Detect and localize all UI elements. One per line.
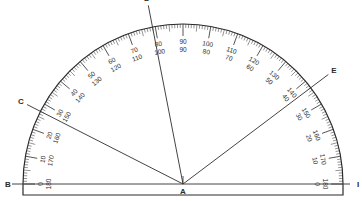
tick-mark: [49, 97, 52, 99]
point-labels: CDEBIA: [5, 0, 359, 196]
tick-mark: [329, 156, 341, 158]
point-label-d: D: [144, 0, 150, 3]
tick-mark: [91, 53, 95, 59]
tick-mark: [270, 51, 272, 54]
tick-mark: [47, 99, 50, 101]
tick-mark: [196, 25, 197, 32]
tick-mark: [80, 61, 88, 70]
tick-mark: [26, 151, 30, 152]
tick-mark: [103, 45, 109, 55]
tick-mark: [268, 50, 270, 53]
inner-scale-number: 70: [224, 53, 234, 62]
tick-mark: [70, 71, 75, 76]
tick-mark: [34, 127, 38, 128]
tick-mark: [321, 109, 325, 111]
tick-mark: [322, 116, 328, 119]
tick-mark: [87, 56, 89, 59]
tick-mark: [207, 26, 208, 30]
tick-mark: [169, 25, 170, 32]
tick-mark: [46, 102, 49, 104]
tick-mark: [311, 104, 321, 110]
tick-mark: [84, 58, 86, 61]
tick-mark: [331, 132, 335, 133]
tick-mark: [155, 26, 157, 38]
tick-mark: [314, 97, 317, 99]
tick-mark: [50, 95, 53, 97]
tick-mark: [248, 39, 251, 45]
point-label-e: E: [331, 66, 337, 75]
tick-mark: [239, 35, 240, 39]
tick-mark: [263, 47, 265, 50]
tick-mark: [36, 121, 40, 123]
tick-mark: [52, 92, 58, 96]
tick-mark: [299, 77, 302, 80]
tick-mark: [306, 85, 309, 87]
tick-mark: [123, 36, 124, 40]
tick-mark: [218, 28, 219, 32]
tick-mark: [337, 162, 341, 163]
tick-mark: [94, 51, 96, 54]
tick-mark: [285, 63, 288, 66]
tick-mark: [331, 135, 335, 136]
tick-mark: [291, 71, 296, 76]
tick-mark: [336, 151, 340, 152]
tick-mark: [309, 90, 312, 92]
tick-mark: [136, 31, 137, 35]
point-label-i: I: [357, 180, 359, 189]
tick-mark: [27, 148, 31, 149]
tick-mark: [259, 44, 261, 47]
tick-mark: [334, 145, 338, 146]
tick-mark: [336, 153, 340, 154]
tick-mark: [37, 119, 41, 121]
inner-scale-number: 100: [154, 47, 166, 56]
tick-mark: [322, 111, 326, 113]
ray-e: [183, 74, 328, 184]
tick-mark: [108, 43, 110, 47]
tick-mark: [60, 81, 69, 89]
tick-mark: [126, 35, 127, 39]
tick-mark: [231, 32, 232, 36]
tick-mark: [256, 43, 258, 47]
tick-mark: [98, 48, 100, 51]
protractor-svg: 0180101702016030150401405013060120701108…: [0, 0, 362, 201]
tick-mark: [25, 159, 29, 160]
outer-scale-number: 90: [179, 38, 187, 45]
tick-mark: [147, 28, 148, 32]
tick-mark: [332, 137, 336, 138]
tick-mark: [213, 27, 214, 31]
tick-mark: [30, 137, 34, 138]
tick-mark: [82, 60, 85, 63]
tick-mark: [66, 75, 69, 78]
tick-mark: [43, 106, 46, 108]
tick-mark: [327, 121, 331, 123]
tick-mark: [308, 92, 314, 96]
tick-mark: [101, 47, 103, 50]
tick-mark: [39, 114, 43, 116]
tick-mark: [221, 29, 222, 33]
tick-mark: [38, 116, 44, 119]
tick-mark: [144, 29, 145, 33]
tick-mark: [76, 65, 79, 68]
tick-mark: [105, 44, 107, 47]
outer-scale-number: 170: [319, 153, 328, 165]
tick-mark: [139, 30, 140, 34]
tick-mark: [59, 83, 62, 86]
tick-mark: [271, 53, 275, 59]
tick-mark: [215, 27, 216, 31]
tick-mark: [25, 162, 29, 163]
tick-mark: [287, 65, 290, 68]
tick-mark: [244, 37, 246, 41]
tick-mark: [246, 38, 248, 42]
tick-mark: [297, 75, 300, 78]
outer-scale-number: 10: [39, 155, 47, 164]
tick-mark: [295, 73, 298, 76]
tick-mark: [89, 55, 91, 58]
tick-mark: [254, 41, 256, 45]
tick-mark: [223, 29, 225, 36]
tick-mark: [68, 73, 71, 76]
tick-mark: [205, 26, 206, 30]
tick-mark: [57, 85, 60, 87]
tick-mark: [25, 156, 37, 158]
inner-scale-number: 80: [202, 47, 211, 55]
inner-scale-number: 10: [311, 156, 319, 165]
